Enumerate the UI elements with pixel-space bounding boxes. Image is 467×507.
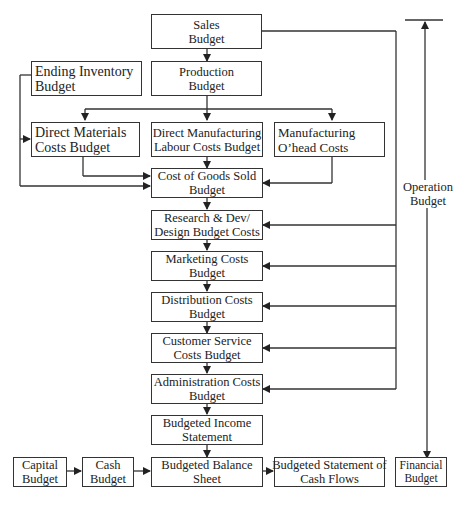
budgeted-income-statement-node: Budgeted Income Statement bbox=[151, 415, 263, 445]
distribution-costs-budget-node: Distribution Costs Budget bbox=[151, 292, 263, 322]
ending-inventory-budget-node: Ending Inventory Budget bbox=[31, 61, 142, 96]
customer-service-costs-budget-node: Customer Service Costs Budget bbox=[151, 333, 263, 363]
operation-budget-label: Operation Budget bbox=[399, 180, 457, 208]
direct-materials-costs-budget-node: Direct Materials Costs Budget bbox=[31, 122, 140, 157]
budgeted-cash-flows-node: Budgeted Statement of Cash Flows bbox=[274, 457, 385, 487]
cogs-budget-node: Cost of Goods Sold Budget bbox=[151, 168, 263, 198]
rnd-design-budget-costs-node: Research & Dev/ Design Budget Costs bbox=[151, 210, 263, 240]
budgeted-balance-sheet-node: Budgeted Balance Sheet bbox=[151, 457, 263, 487]
production-budget-node: Production Budget bbox=[151, 61, 262, 96]
financial-budget-node: Financial Budget bbox=[395, 457, 447, 487]
manufacturing-overhead-costs-node: Manufacturing O’head Costs bbox=[274, 122, 385, 157]
cash-budget-node: Cash Budget bbox=[82, 457, 134, 487]
sales-budget-node: Sales Budget bbox=[151, 14, 262, 49]
direct-labour-costs-budget-node: Direct Manufacturing Labour Costs Budget bbox=[151, 122, 263, 157]
capital-budget-node: Capital Budget bbox=[13, 457, 67, 487]
master-budget-diagram: Sales Budget Production Budget Ending In… bbox=[0, 0, 467, 507]
administration-costs-budget-node: Administration Costs Budget bbox=[151, 374, 263, 404]
marketing-costs-budget-node: Marketing Costs Budget bbox=[151, 251, 263, 281]
